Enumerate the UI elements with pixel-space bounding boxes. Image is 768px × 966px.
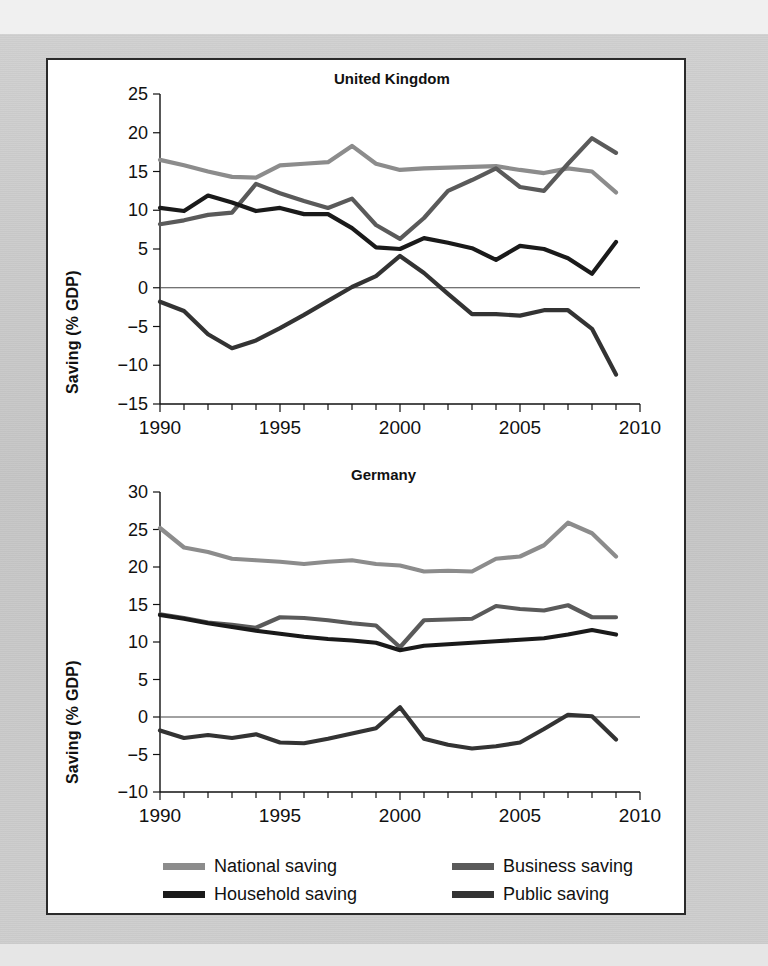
legend-item-business: Business saving <box>452 856 633 877</box>
legend-row-1-right: Business saving <box>452 856 633 877</box>
chart-title: United Kingdom <box>334 70 450 87</box>
svg-text:2010: 2010 <box>619 805 661 826</box>
legend-row-2-right: Public saving <box>452 884 609 905</box>
svg-text:10: 10 <box>128 632 148 652</box>
svg-text:−5: −5 <box>127 317 148 337</box>
svg-text:10: 10 <box>128 200 148 220</box>
chart-legend: National saving Business saving Househol… <box>48 854 688 914</box>
chart-title: Germany <box>351 466 416 483</box>
y-axis-label: Saving (% GDP) <box>64 270 82 394</box>
svg-text:30: 30 <box>128 482 148 502</box>
svg-text:1995: 1995 <box>259 417 301 438</box>
svg-text:1995: 1995 <box>259 805 301 826</box>
svg-text:15: 15 <box>128 595 148 615</box>
legend-swatch-national <box>163 863 205 870</box>
svg-text:−15: −15 <box>117 394 148 414</box>
legend-swatch-household <box>163 891 205 898</box>
svg-text:1990: 1990 <box>139 805 181 826</box>
legend-label-household: Household saving <box>214 884 357 905</box>
page-top-margin <box>0 0 768 34</box>
svg-text:1990: 1990 <box>139 417 181 438</box>
legend-swatch-public <box>452 891 494 898</box>
legend-swatch-business <box>452 863 494 870</box>
chart-united-kingdom: Saving (% GDP) United Kingdom 1990199520… <box>48 64 688 464</box>
legend-label-business: Business saving <box>503 856 633 877</box>
legend-item-public: Public saving <box>452 884 609 905</box>
svg-text:20: 20 <box>128 123 148 143</box>
legend-label-national: National saving <box>214 856 337 877</box>
svg-text:15: 15 <box>128 162 148 182</box>
y-axis-label: Saving (% GDP) <box>64 660 82 784</box>
svg-text:5: 5 <box>138 670 148 690</box>
svg-text:−10: −10 <box>117 355 148 375</box>
uk-plot-svg: 19901995200020052010−15−10−50510152025 <box>48 64 688 464</box>
svg-text:0: 0 <box>138 707 148 727</box>
svg-text:20: 20 <box>128 557 148 577</box>
svg-text:5: 5 <box>138 239 148 259</box>
legend-row-1: National saving <box>163 856 337 877</box>
svg-text:25: 25 <box>128 84 148 104</box>
germany-plot-svg: 19901995200020052010−10−5051015202530 <box>48 464 688 854</box>
legend-label-public: Public saving <box>503 884 609 905</box>
legend-item-national: National saving <box>163 856 337 877</box>
svg-text:−5: −5 <box>127 745 148 765</box>
svg-text:2005: 2005 <box>499 805 541 826</box>
svg-text:2000: 2000 <box>379 417 421 438</box>
svg-text:−10: −10 <box>117 782 148 802</box>
svg-text:25: 25 <box>128 520 148 540</box>
legend-row-2: Household saving <box>163 884 357 905</box>
svg-text:2005: 2005 <box>499 417 541 438</box>
svg-text:2000: 2000 <box>379 805 421 826</box>
svg-text:2010: 2010 <box>619 417 661 438</box>
legend-item-household: Household saving <box>163 884 357 905</box>
figure-panel: Saving (% GDP) United Kingdom 1990199520… <box>46 58 686 915</box>
chart-germany: Saving (% GDP) Germany 19901995200020052… <box>48 464 688 854</box>
page-bottom-margin <box>0 944 768 966</box>
svg-text:0: 0 <box>138 278 148 298</box>
